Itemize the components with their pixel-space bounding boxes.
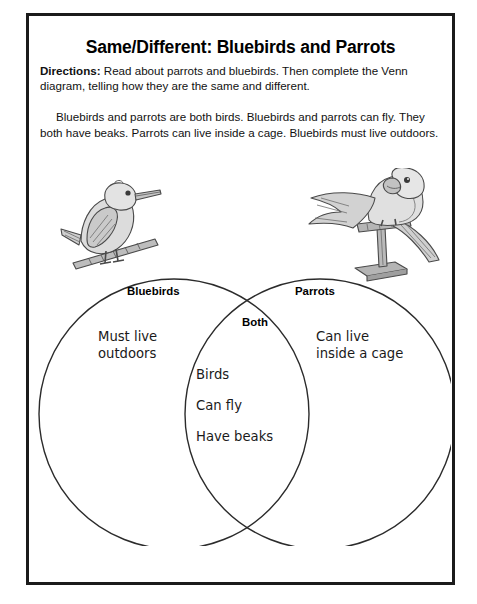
reading-passage: Bluebirds and parrots are both birds. Bl… <box>40 109 444 140</box>
venn-label-parrots: Parrots <box>295 285 335 297</box>
venn-entries-parrots-only: Can live inside a cage <box>316 328 403 362</box>
venn-entries-both: Birds Can fly Have beaks <box>196 359 273 452</box>
venn-entries-bluebirds-only: Must live outdoors <box>98 328 157 362</box>
venn-entry: Can fly <box>196 390 273 421</box>
venn-label-bluebirds: Bluebirds <box>127 285 180 297</box>
venn-entry: Birds <box>196 359 273 390</box>
worksheet-page: Same/Different: Bluebirds and Parrots Di… <box>26 13 455 585</box>
venn-entry: inside a cage <box>316 345 403 362</box>
venn-entry: Have beaks <box>196 421 273 452</box>
directions: Directions: Read about parrots and blueb… <box>40 63 445 94</box>
venn-entry: Can live <box>316 328 403 345</box>
venn-diagram: Bluebirds Both Parrots Must live outdoor… <box>37 256 451 546</box>
venn-label-both: Both <box>242 316 268 328</box>
venn-entry: outdoors <box>98 345 157 362</box>
venn-entry: Must live <box>98 328 157 345</box>
directions-label: Directions: <box>40 64 101 77</box>
page-title: Same/Different: Bluebirds and Parrots <box>29 37 452 58</box>
